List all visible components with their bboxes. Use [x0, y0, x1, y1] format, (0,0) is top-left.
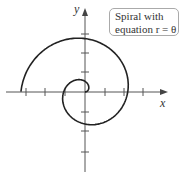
equation-callout: Spiral with equation r = θ [109, 8, 179, 36]
x-axis-arrow-icon [160, 89, 168, 95]
x-axis-label: x [160, 96, 165, 111]
y-axis-arrow-icon [82, 8, 88, 16]
callout-line-2: equation r = θ [115, 23, 178, 36]
callout-line-1: Spiral with [115, 10, 178, 23]
y-axis-label: y [74, 2, 79, 17]
spiral-curve [21, 38, 128, 125]
